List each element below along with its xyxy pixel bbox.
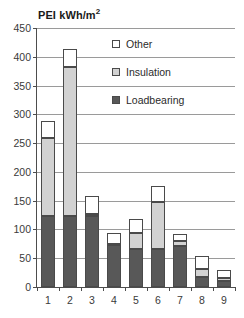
bar-segment-other (85, 196, 99, 214)
legend-item-other: Other (112, 38, 222, 50)
bar-segment-insulation (85, 214, 99, 216)
bar-segment-insulation (151, 202, 165, 249)
y-axis-tick (33, 86, 37, 87)
y-axis-tick (33, 229, 37, 230)
pei-stacked-bar-chart: PEI kWh/m2 050100150200250300350400450 1… (0, 0, 244, 318)
bar-segment-insulation (63, 67, 77, 216)
chart-legend: OtherInsulationLoadbearing (112, 38, 222, 122)
x-axis-tick (169, 287, 170, 291)
x-axis-tick (103, 287, 104, 291)
y-axis-label: 200 (13, 166, 31, 178)
y-axis-label: 0 (25, 281, 31, 293)
y-axis-label: 50 (19, 252, 31, 264)
bar-segment-loadbearing (85, 216, 99, 287)
y-axis-tick (33, 172, 37, 173)
bar-segment-loadbearing (195, 277, 209, 287)
bar-segment-loadbearing (107, 245, 121, 287)
bar-segment-insulation (217, 278, 231, 281)
legend-item-insulation: Insulation (112, 66, 222, 78)
y-axis-tick (33, 143, 37, 144)
bar-segment-other (195, 256, 209, 269)
bar-segment-insulation (195, 269, 209, 277)
x-axis-tick (125, 287, 126, 291)
x-axis-label: 8 (199, 294, 205, 306)
y-axis-tick (33, 258, 37, 259)
bar-segment-other (41, 121, 55, 138)
bar-stack (63, 28, 77, 287)
y-axis-label: 250 (13, 137, 31, 149)
x-axis-tick (147, 287, 148, 291)
chart-title: PEI kWh/m2 (38, 7, 100, 21)
x-axis-tick (37, 287, 38, 291)
x-axis-label: 2 (67, 294, 73, 306)
x-axis-label: 7 (177, 294, 183, 306)
y-axis-label: 300 (13, 108, 31, 120)
x-axis-tick (213, 287, 214, 291)
bar-segment-other (151, 186, 165, 202)
chart-title-main: PEI kWh/m (38, 9, 96, 21)
x-axis-label: 1 (45, 294, 51, 306)
x-axis-tick (235, 287, 236, 291)
x-axis-label: 5 (133, 294, 139, 306)
legend-item-loadbearing: Loadbearing (112, 94, 222, 106)
y-axis-label: 450 (13, 22, 31, 34)
y-axis-tick (33, 114, 37, 115)
x-axis-label: 9 (221, 294, 227, 306)
y-axis-tick (33, 28, 37, 29)
legend-swatch-icon (112, 96, 120, 104)
bar-segment-loadbearing (129, 249, 143, 287)
legend-swatch-icon (112, 40, 120, 48)
bar-segment-loadbearing (41, 216, 55, 287)
x-axis-tick (59, 287, 60, 291)
bar-segment-other (107, 233, 121, 244)
y-axis-label: 150 (13, 195, 31, 207)
bar-segment-other (63, 49, 77, 67)
x-axis-label: 3 (89, 294, 95, 306)
y-axis-label: 100 (13, 223, 31, 235)
x-axis-tick (191, 287, 192, 291)
legend-label: Other (126, 38, 152, 50)
bar-segment-insulation (41, 138, 55, 216)
x-axis-label: 4 (111, 294, 117, 306)
legend-label: Insulation (126, 66, 171, 78)
y-axis-label: 350 (13, 80, 31, 92)
y-axis-tick (33, 201, 37, 202)
bar-segment-insulation (129, 233, 143, 249)
y-axis-tick (33, 57, 37, 58)
x-axis-tick (81, 287, 82, 291)
y-axis-label: 400 (13, 51, 31, 63)
bar-segment-other (217, 270, 231, 279)
legend-swatch-icon (112, 68, 120, 76)
bar-segment-other (173, 234, 187, 241)
bar-segment-loadbearing (151, 249, 165, 287)
x-axis-label: 6 (155, 294, 161, 306)
legend-label: Loadbearing (126, 94, 184, 106)
bar-segment-insulation (173, 241, 187, 246)
bar-stack (41, 28, 55, 287)
bar-segment-loadbearing (63, 216, 77, 287)
bar-segment-other (129, 219, 143, 233)
bar-segment-loadbearing (217, 281, 231, 287)
bar-stack (85, 28, 99, 287)
chart-title-superscript: 2 (96, 7, 101, 16)
bar-segment-loadbearing (173, 246, 187, 287)
